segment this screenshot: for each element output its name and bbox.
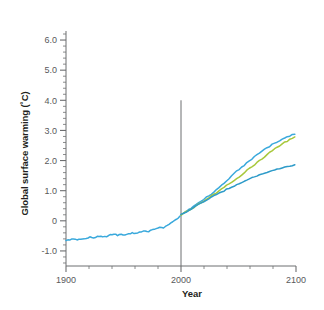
x-axis-tick-label: 1900: [56, 275, 76, 285]
series-line-historical-observations: [66, 216, 180, 241]
x-axis-tick-label: 2000: [171, 275, 191, 285]
x-axis-tick-label: 2100: [286, 275, 306, 285]
chart-plot-area: -1.001.02.03.04.05.06.0190020002100: [0, 0, 324, 310]
y-axis-tick-label: 0: [52, 216, 57, 226]
y-axis-tick-label: -1.0: [41, 246, 57, 256]
y-axis-tick-label: 4.0: [44, 96, 57, 106]
series-line-mid-scenario: [181, 137, 295, 215]
y-axis-tick-label: 2.0: [44, 156, 57, 166]
y-axis-tick-label: 6.0: [44, 35, 57, 45]
y-axis-tick-label: 3.0: [44, 126, 57, 136]
chart-container: Global surface warming (˚C) -1.001.02.03…: [0, 0, 324, 310]
x-axis-label: Year: [182, 288, 202, 299]
x-axis-label-wrapper: Year: [0, 288, 324, 299]
y-axis-tick-label: 1.0: [44, 186, 57, 196]
y-axis-tick-label: 5.0: [44, 65, 57, 75]
series-line-low-scenario: [181, 165, 295, 215]
